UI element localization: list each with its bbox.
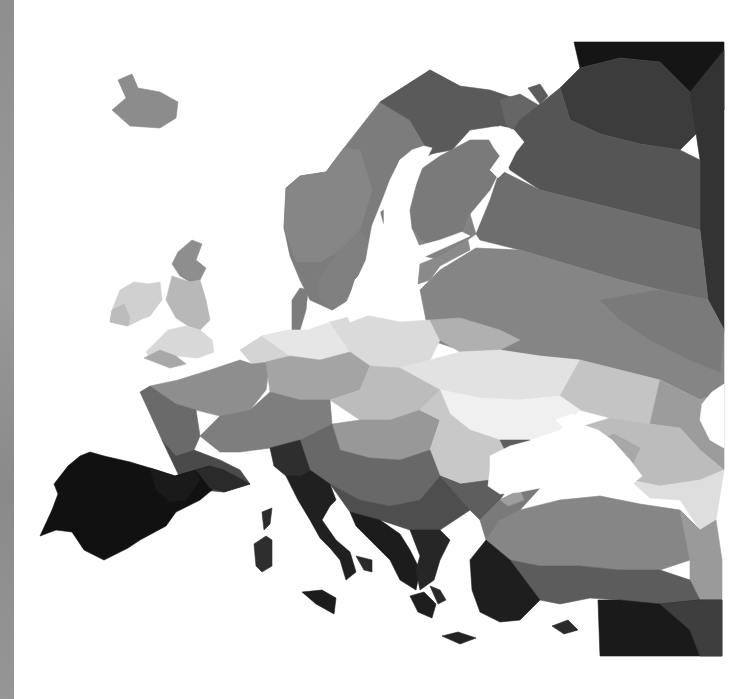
region-peloponnese <box>410 592 436 618</box>
land-regions <box>40 42 724 656</box>
region-cyprus <box>552 620 578 634</box>
region-sardinia <box>254 536 272 572</box>
region-britain-mid <box>166 276 210 330</box>
region-jutland <box>292 288 308 330</box>
region-italy-heel <box>356 556 372 572</box>
region-britain-north <box>172 240 206 282</box>
region-crete <box>442 632 476 644</box>
region-iceland <box>112 74 178 128</box>
europe-lowpoly-map <box>0 0 754 699</box>
region-sicily <box>302 590 336 614</box>
region-corsica <box>262 508 272 530</box>
